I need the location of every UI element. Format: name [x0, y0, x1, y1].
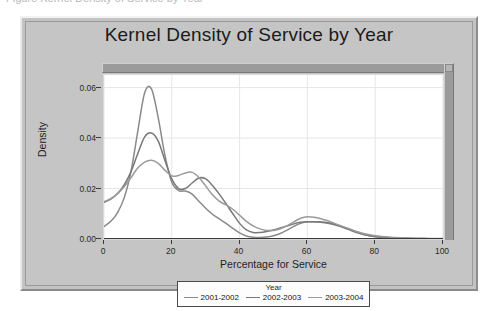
y-axis-tick-mark [96, 188, 101, 189]
legend-line-swatch [246, 297, 260, 298]
density-curve [104, 86, 443, 238]
x-axis-tick-label: 60 [302, 246, 311, 256]
x-axis-tick-labels: 020406080100 [103, 242, 444, 258]
legend-title: Year [178, 283, 369, 292]
plot-area [103, 74, 444, 240]
y-axis-tick-label: 0.04 [66, 133, 96, 143]
x-axis-tick-mark [103, 240, 104, 244]
density-curves-svg [104, 75, 443, 239]
y-axis-tick-label: 0.06 [66, 83, 96, 93]
y-axis-tick-mark [96, 137, 101, 138]
legend-items: 2001-20022002-20032003-2004 [178, 293, 369, 302]
x-axis-tick-label: 20 [166, 246, 175, 256]
x-axis-tick-label: 40 [234, 246, 243, 256]
x-axis-label: Percentage for Service [103, 258, 444, 270]
x-axis-tick-label: 0 [101, 246, 106, 256]
x-axis-tick-mark [306, 240, 307, 244]
legend-item-label: 2001-2002 [201, 293, 239, 302]
legend-item-label: 2002-2003 [263, 293, 301, 302]
y-axis-tick-mark [96, 87, 101, 88]
y-axis-tick-mark [96, 238, 101, 239]
legend-item[interactable]: 2001-2002 [184, 293, 239, 302]
legend-line-swatch [184, 297, 198, 298]
figure-frame: Kernel Density of Service by Year 0.000.… [20, 16, 478, 291]
y-axis-tick-label: 0.02 [66, 184, 96, 194]
y-axis-tick-labels: 0.000.020.040.06 [62, 74, 96, 240]
density-curve [104, 133, 443, 239]
legend-line-swatch [308, 297, 322, 298]
clipped-header-text: Figure Kernel Density of Service by Year [0, 0, 498, 9]
vertical-scrollbar[interactable] [444, 63, 454, 240]
horizontal-scrollbar[interactable] [102, 63, 454, 73]
page-title: Kernel Density of Service by Year [22, 24, 476, 46]
scrollbar-corner-button[interactable] [445, 64, 453, 72]
x-axis-tick-mark [171, 240, 172, 244]
density-curve [104, 160, 443, 238]
y-axis-tick-label: 0.00 [66, 234, 96, 244]
legend-item[interactable]: 2002-2003 [246, 293, 301, 302]
x-axis-tick-label: 80 [369, 246, 378, 256]
x-axis-tick-mark [374, 240, 375, 244]
x-axis-tick-mark [239, 240, 240, 244]
legend-item-label: 2003-2004 [325, 293, 363, 302]
legend-item[interactable]: 2003-2004 [308, 293, 363, 302]
x-axis-tick-mark [442, 240, 443, 244]
x-axis-tick-label: 100 [435, 246, 449, 256]
y-axis-label: Density [36, 122, 48, 157]
legend: Year 2001-20022002-20032003-2004 [177, 281, 370, 307]
